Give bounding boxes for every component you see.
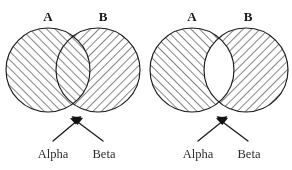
right-alpha-label: Alpha <box>183 147 214 161</box>
left-alpha-label: Alpha <box>38 147 69 161</box>
left-set-b-label: B <box>99 9 108 24</box>
right-set-a-label: A <box>187 9 197 24</box>
left-set-a-label: A <box>43 9 53 24</box>
right-beta-label: Beta <box>238 147 261 161</box>
venn-diagram-figure: A B Alpha Beta <box>0 0 292 170</box>
venn-figure-root: A B Alpha Beta <box>0 0 292 170</box>
right-set-b-label: B <box>244 9 253 24</box>
left-beta-label: Beta <box>93 147 116 161</box>
